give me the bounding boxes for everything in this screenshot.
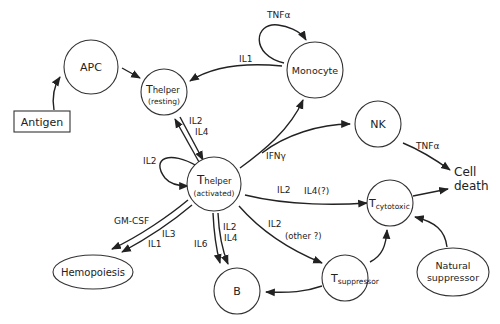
cell-death-line2: death (454, 179, 489, 193)
edge-natural-suppressor-cytotoxic (415, 217, 447, 247)
antigen-label: Antigen (21, 116, 64, 129)
node-antigen: Antigen (14, 111, 70, 132)
label-il2-self: IL2 (143, 156, 156, 166)
node-thelper-resting: Thelper (resting) (141, 69, 187, 115)
apc-label: APC (80, 61, 102, 74)
edge-thelper-cytotoxic (245, 195, 367, 204)
tsuppressor-sub: suppressor (338, 277, 380, 286)
edge-cytotoxic-death (413, 189, 448, 196)
hemopoiesis-label: Hemopoiesis (61, 267, 125, 278)
node-thelper-activated: Thelper (activated) (187, 157, 241, 211)
b-label: B (233, 285, 241, 298)
label-tnfa-monocyte: TNFα (266, 10, 290, 20)
node-hemopoiesis: Hemopoiesis (53, 255, 133, 289)
label-il6: IL6 (194, 239, 208, 249)
label-il4-b: IL4 (224, 233, 238, 243)
thelper-activated-sub: helper (204, 176, 232, 186)
label-tnfa-nk: TNFα (415, 141, 439, 151)
label-il3: IL3 (162, 229, 175, 239)
label-il2-suppressor: IL2 (268, 219, 281, 229)
label-ifng: IFNγ (266, 151, 287, 161)
label-il4-resting: IL4 (195, 127, 209, 137)
thelper-activated-state: (activated) (194, 189, 235, 198)
tcytotoxic-sub: cytotoxic (376, 202, 410, 211)
natural-suppressor-line1: Natural (435, 260, 470, 271)
node-b: B (214, 268, 260, 314)
node-cell-death: Cell death (454, 165, 489, 193)
node-tcytotoxic: Tcytotoxic (367, 180, 413, 226)
label-il2-b: IL2 (223, 222, 236, 232)
edge-apc-thelper (122, 68, 140, 78)
label-il2-resting: IL2 (189, 116, 202, 126)
label-gmcsf: GM-CSF (114, 216, 149, 226)
cytokine-network-diagram: Antigen APC Thelper (resting) Monocyte N… (0, 0, 500, 324)
label-il1-monocyte: IL1 (239, 54, 252, 64)
edge-monocyte-thelper (190, 65, 282, 81)
label-il2-cytotoxic: IL2 (277, 185, 290, 195)
label-other-suppressor: (other ?) (285, 231, 322, 241)
edge-suppressor-cytotoxic (370, 230, 387, 262)
nk-label: NK (370, 118, 386, 131)
node-apc: APC (64, 40, 118, 94)
thelper-resting-sub: helper (153, 85, 181, 95)
node-nk: NK (355, 101, 401, 147)
label-il4q-cytotoxic: IL4(?) (304, 186, 329, 196)
natural-suppressor-line2: suppressor (427, 272, 479, 283)
monocyte-label: Monocyte (292, 65, 338, 76)
edge-suppressor-b (266, 286, 322, 292)
svg-text:Thelper: Thelper (196, 173, 232, 187)
node-natural-suppressor: Natural suppressor (417, 248, 489, 296)
label-il1-hemo: IL1 (148, 239, 161, 249)
cell-death-line1: Cell (454, 165, 476, 179)
edge-antigen-apc (53, 77, 60, 110)
thelper-resting-state: (resting) (148, 97, 180, 106)
node-monocyte: Monocyte (287, 42, 343, 98)
svg-text:Thelper: Thelper (145, 83, 180, 96)
